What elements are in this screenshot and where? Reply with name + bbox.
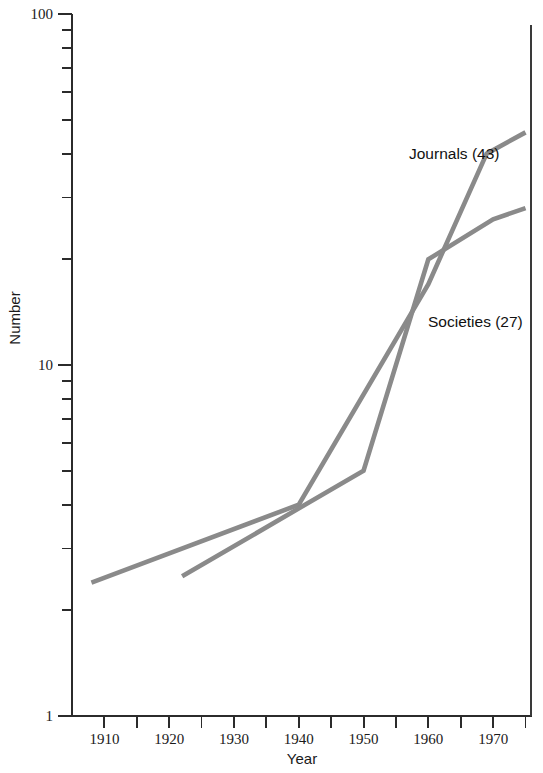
x-axis-tick-labels: 1910192019301940195019601970 [89, 731, 508, 747]
x-tick-label: 1940 [284, 731, 314, 747]
data-series-group [91, 132, 525, 582]
y-axis-title: Number [6, 291, 23, 344]
chart-container: 110100 1910192019301940195019601970 Year… [0, 0, 543, 773]
x-axis-title: Year [287, 750, 317, 767]
x-tick-label: 1970 [478, 731, 508, 747]
series-label-societies: Societies (27) [428, 313, 523, 330]
x-tick-label: 1930 [219, 731, 249, 747]
x-tick-label: 1960 [413, 731, 443, 747]
line-chart: 110100 1910192019301940195019601970 Year… [0, 0, 543, 773]
series-line-societies [182, 208, 525, 576]
x-axis-ticks [104, 716, 525, 728]
y-tick-label: 100 [31, 6, 54, 22]
x-tick-label: 1910 [89, 731, 119, 747]
y-axis-tick-labels: 110100 [31, 6, 54, 724]
series-label-journals: Journals (43) [409, 145, 499, 162]
y-tick-label: 10 [38, 357, 53, 373]
axes-group [72, 14, 532, 716]
y-tick-label: 1 [46, 708, 54, 724]
y-axis-ticks [58, 14, 72, 716]
x-tick-label: 1950 [349, 731, 379, 747]
x-tick-label: 1920 [154, 731, 184, 747]
series-line-journals [91, 132, 525, 582]
